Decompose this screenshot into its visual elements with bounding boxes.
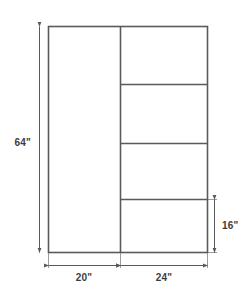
dimension-label-20: 20"	[76, 272, 93, 283]
diagram-canvas: 64" 20" 24" 16"	[0, 0, 248, 296]
cabinet-outline	[49, 27, 208, 253]
extension-lines-right	[208, 200, 217, 253]
dimension-height-left: 64"	[15, 27, 40, 253]
dimension-height-bottom-right: 16"	[215, 200, 239, 253]
dimension-width-right: 24"	[121, 266, 208, 284]
cabinet-outer-rect	[49, 27, 208, 253]
dimension-width-left: 20"	[49, 266, 121, 284]
dimension-label-16: 16"	[222, 220, 239, 231]
elevation-drawing: 64" 20" 24" 16"	[0, 0, 248, 296]
dimension-label-24: 24"	[156, 272, 173, 283]
dimension-label-64: 64"	[15, 137, 32, 148]
